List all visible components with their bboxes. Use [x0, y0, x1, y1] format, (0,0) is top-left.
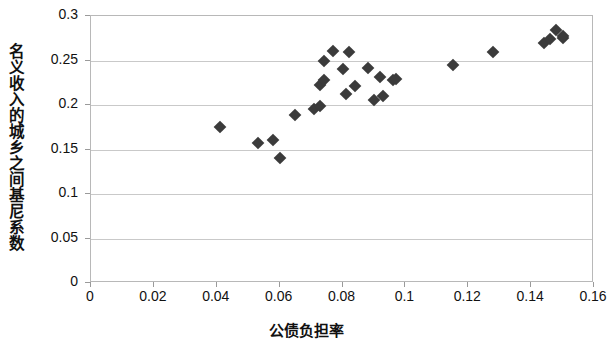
x-tick-mark: [279, 282, 280, 287]
x-tick-mark: [593, 282, 594, 287]
data-point: [214, 121, 227, 134]
x-tick-mark: [90, 282, 91, 287]
x-tick-mark: [216, 282, 217, 287]
data-point: [267, 133, 280, 146]
x-tick-label: 0.08: [312, 288, 372, 304]
y-tick-label: 0.25: [0, 51, 78, 67]
x-tick-label: 0.1: [374, 288, 434, 304]
data-point: [349, 80, 362, 93]
x-tick-label: 0.16: [563, 288, 612, 304]
x-tick-label: 0.12: [437, 288, 497, 304]
gridline-y: [91, 150, 592, 151]
x-tick-mark: [404, 282, 405, 287]
x-tick-mark: [153, 282, 154, 287]
data-point: [317, 55, 330, 68]
gridline-y: [91, 194, 592, 195]
y-tick-label: 0.2: [0, 95, 78, 111]
x-tick-mark: [530, 282, 531, 287]
gridline-y: [91, 61, 592, 62]
x-tick-label: 0.06: [249, 288, 309, 304]
y-tick-label: 0.1: [0, 184, 78, 200]
x-tick-label: 0.02: [123, 288, 183, 304]
x-tick-mark: [342, 282, 343, 287]
gridline-y: [91, 105, 592, 106]
x-tick-mark: [467, 282, 468, 287]
data-point: [251, 137, 264, 150]
y-tick-label: 0.3: [0, 6, 78, 22]
y-tick-label: 0: [0, 273, 78, 289]
data-point: [289, 108, 302, 121]
data-point: [339, 88, 352, 101]
data-point: [487, 46, 500, 59]
x-tick-label: 0.04: [186, 288, 246, 304]
y-tick-label: 0.15: [0, 140, 78, 156]
x-axis-title: 公债负担率: [0, 319, 612, 340]
data-point: [273, 152, 286, 165]
data-point: [374, 71, 387, 84]
x-tick-label: 0: [60, 288, 120, 304]
data-point: [342, 46, 355, 59]
scatter-chart-figure: 名义收入的城乡之间基尼系数 00.050.10.150.20.250.3 00.…: [0, 0, 612, 342]
y-tick-label: 0.05: [0, 229, 78, 245]
data-point: [361, 61, 374, 74]
gridline-y: [91, 239, 592, 240]
plot-area: [90, 15, 593, 282]
data-point: [327, 44, 340, 57]
x-tick-label: 0.14: [500, 288, 560, 304]
data-point: [336, 63, 349, 76]
